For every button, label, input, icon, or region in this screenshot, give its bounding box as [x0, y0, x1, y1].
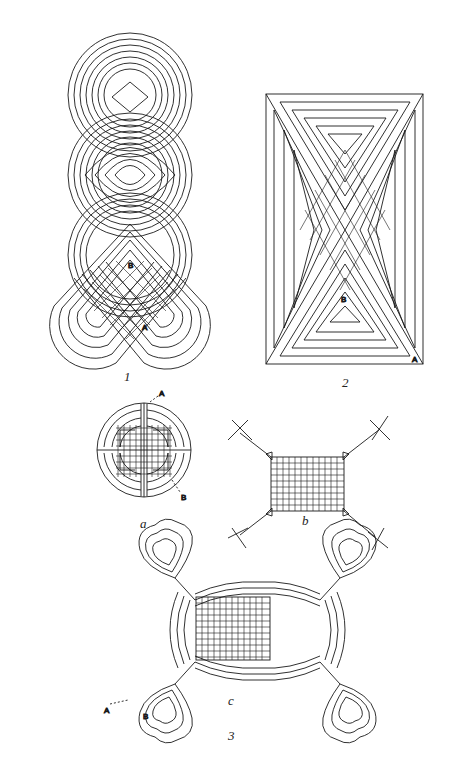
plate-canvas: B A	[0, 0, 450, 777]
fig1-point-b: B	[128, 261, 133, 270]
figure-3a-caption: a	[140, 516, 147, 531]
figure-3c-caption: c	[228, 693, 234, 708]
fig3c-point-b: B	[143, 712, 148, 721]
figure-3-caption: 3	[227, 728, 235, 743]
figure-1-caption: 1	[124, 369, 131, 384]
fig3c-point-a: A	[104, 706, 110, 715]
fig3a-point-a: A	[159, 389, 165, 398]
figure-3b-drawing	[228, 416, 390, 550]
fig1-point-a: A	[142, 323, 148, 332]
figure-3a-drawing	[97, 396, 191, 497]
figure-3c-drawing	[110, 519, 376, 743]
figure-1-drawing	[50, 33, 211, 369]
figure-2-drawing	[266, 94, 423, 364]
fig2-point-a: A	[412, 355, 418, 364]
fig3a-point-b: B	[181, 493, 186, 502]
fig2-point-b: B	[341, 295, 346, 304]
figure-2-caption: 2	[342, 375, 349, 390]
figure-3b-caption: b	[302, 513, 309, 528]
